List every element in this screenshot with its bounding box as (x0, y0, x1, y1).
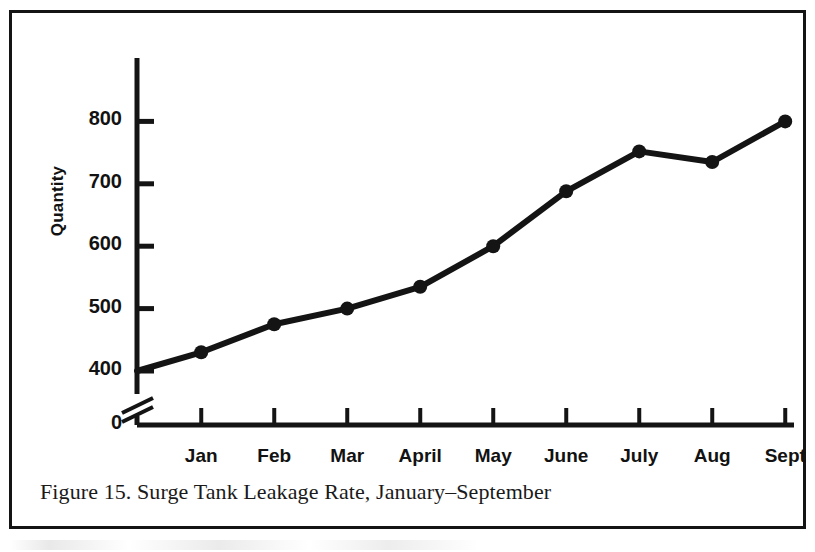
axis-layer (137, 58, 794, 425)
x-axis-tick-label: June (544, 445, 588, 467)
data-series (137, 114, 792, 371)
data-point-marker (486, 239, 500, 253)
x-tick-marks (201, 408, 785, 425)
data-point-marker (705, 155, 719, 169)
data-point-marker (413, 280, 427, 294)
x-axis-tick-label: Mar (330, 445, 364, 467)
page-scan-artifact (9, 540, 569, 550)
data-point-marker (194, 345, 208, 359)
figure-frame: Quantity 0400500600700800 JanFebMarApril… (9, 10, 806, 529)
data-point-marker (778, 114, 792, 128)
figure-root: Quantity 0400500600700800 JanFebMarApril… (0, 0, 815, 552)
x-axis-tick-label: May (475, 445, 512, 467)
data-point-marker (267, 317, 281, 331)
x-axis-tick-label: Aug (694, 445, 731, 467)
figure-caption: Figure 15. Surge Tank Leakage Rate, Janu… (40, 479, 551, 505)
y-axis-tick-label: 600 (50, 232, 122, 255)
y-axis-tick-label: 0 (50, 411, 122, 434)
data-point-marker (340, 302, 354, 316)
x-axis-tick-label: Jan (185, 445, 218, 467)
y-axis-tick-label: 800 (50, 107, 122, 130)
y-axis-tick-label: 700 (50, 170, 122, 193)
plot-area: Quantity 0400500600700800 JanFebMarApril… (12, 13, 809, 532)
x-axis-tick-label: April (399, 445, 442, 467)
x-axis-tick-label: Feb (257, 445, 291, 467)
series-line (137, 121, 785, 371)
x-axis-tick-label: July (620, 445, 658, 467)
x-axis-tick-label: Sept (765, 445, 806, 467)
y-axis-tick-label: 500 (50, 295, 122, 318)
data-point-marker (559, 184, 573, 198)
y-tick-marks (137, 121, 154, 371)
y-axis-tick-label: 400 (50, 357, 122, 380)
data-point-marker (632, 144, 646, 158)
